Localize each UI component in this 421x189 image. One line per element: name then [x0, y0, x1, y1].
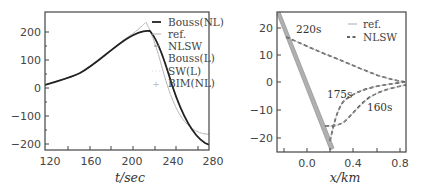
- y-tick-label: 0: [266, 76, 273, 89]
- left-x-axis-label: t/sec: [115, 170, 145, 185]
- series-bouss-nl: [45, 31, 285, 146]
- y-tick-label: −100: [11, 110, 41, 123]
- left-panel: 200 100 0 −100 −200 120 160 200 240 280 …: [11, 12, 285, 185]
- legend-label: NLSW: [363, 31, 397, 43]
- right-y-tick-labels: 20 10 0 −10 −20: [250, 22, 273, 145]
- legend-label: ref.: [363, 18, 381, 30]
- y-tick-label: −10: [250, 104, 273, 117]
- right-y-ticks: [277, 28, 281, 138]
- left-legend: Bouss(NL) ref. NLSW Bouss(L) SW(L) + BIM…: [152, 16, 224, 89]
- y-tick-label: 100: [20, 54, 41, 67]
- left-x-ticks: [68, 146, 198, 150]
- y-tick-label: 20: [259, 22, 273, 35]
- x-tick-label: 160: [81, 155, 102, 168]
- annotation-160s: 160s: [367, 101, 392, 113]
- figure: 200 100 0 −100 −200 120 160 200 240 280 …: [0, 0, 421, 189]
- x-tick-label: 0.8: [391, 157, 409, 170]
- right-panel: 20 10 0 −10 −20 0.0 0.4 0.8 x/km 220s 17…: [250, 12, 409, 185]
- legend-label: BIM(NL): [168, 77, 215, 89]
- x-tick-label: 200: [122, 155, 143, 168]
- legend-label: NLSW: [168, 40, 202, 52]
- legend-swatch-bim-nl-plus-icon: +: [152, 79, 160, 89]
- x-tick-label: 280: [203, 155, 224, 168]
- annotation-220s: 220s: [296, 23, 321, 35]
- annotation-175s: 175s: [327, 88, 352, 100]
- y-tick-label: 10: [259, 49, 273, 62]
- legend-label: SW(L): [168, 65, 201, 77]
- right-x-ticks: [284, 148, 400, 152]
- x-tick-label: 240: [163, 155, 184, 168]
- y-tick-label: 0: [34, 82, 41, 95]
- legend-label: Bouss(L): [168, 52, 215, 64]
- left-y-tick-labels: 200 100 0 −100 −200: [11, 26, 41, 151]
- x-tick-label: 120: [40, 155, 61, 168]
- right-legend: ref. NLSW: [347, 18, 397, 43]
- y-tick-label: −200: [11, 138, 41, 151]
- left-x-tick-labels: 120 160 200 240 280: [40, 155, 224, 168]
- y-tick-label: 200: [20, 26, 41, 39]
- x-tick-label: 0.0: [298, 157, 316, 170]
- y-tick-label: −20: [250, 132, 273, 145]
- legend-label: Bouss(NL): [168, 16, 224, 28]
- right-x-axis-label: x/km: [330, 170, 361, 185]
- right-x-tick-labels: 0.0 0.4 0.8: [298, 157, 409, 170]
- x-tick-label: 0.4: [344, 157, 362, 170]
- legend-label: ref.: [168, 28, 186, 40]
